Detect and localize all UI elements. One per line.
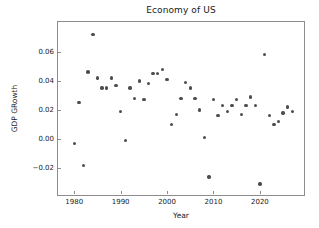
x-tick-label: 1980 — [65, 199, 83, 206]
scatter-point — [193, 97, 196, 100]
scatter-point — [286, 105, 289, 108]
scatter-point — [221, 104, 224, 107]
scatter-point — [133, 97, 136, 100]
y-axis-label-text: GDP GRowth — [11, 85, 20, 133]
y-tick-label: 0.06 — [38, 48, 54, 55]
plot-area: 0.060.040.020.00−0.02 198019902000201020… — [57, 21, 305, 196]
x-tick-label: 2000 — [158, 199, 176, 206]
y-tick-label: −0.02 — [33, 165, 54, 172]
scatter-point — [96, 76, 99, 79]
scatter-point — [230, 104, 233, 107]
x-tick-label: 2010 — [205, 199, 223, 206]
scatter-point — [277, 120, 280, 123]
chart-title: Economy of US — [57, 5, 305, 15]
scatter-point — [142, 98, 145, 101]
scatter-point — [184, 81, 187, 84]
scatter-point — [124, 139, 127, 142]
scatter-point — [240, 113, 243, 116]
y-tick-label: 0.04 — [38, 77, 54, 84]
scatter-point — [235, 98, 238, 101]
scatter-point — [268, 114, 271, 117]
x-tick-label: 2020 — [251, 199, 269, 206]
scatter-point — [73, 142, 76, 145]
scatter-point — [151, 72, 154, 75]
x-tick-label: 1990 — [112, 199, 130, 206]
scatter-point — [254, 104, 257, 107]
scatter-points — [58, 22, 304, 195]
scatter-point — [249, 95, 252, 98]
scatter-point — [207, 175, 210, 178]
scatter-point — [77, 101, 80, 104]
scatter-point — [105, 86, 108, 89]
scatter-point — [165, 78, 168, 81]
scatter-point — [258, 182, 261, 185]
scatter-point — [147, 82, 150, 85]
scatter-point — [110, 76, 113, 79]
scatter-point — [128, 86, 131, 89]
scatter-point — [272, 123, 275, 126]
scatter-point — [114, 84, 117, 87]
scatter-point — [281, 111, 284, 114]
scatter-point — [179, 97, 182, 100]
x-axis-label: Year — [57, 211, 305, 220]
scatter-point — [82, 164, 85, 167]
chart-figure: Economy of US GDP GRowth 0.060.040.020.0… — [0, 0, 319, 228]
scatter-point — [86, 70, 89, 73]
scatter-point — [198, 108, 201, 111]
y-tick-label: 0.02 — [38, 106, 54, 113]
scatter-point — [226, 110, 229, 113]
scatter-point — [291, 110, 294, 113]
scatter-point — [170, 123, 173, 126]
scatter-point — [216, 114, 219, 117]
scatter-point — [263, 53, 266, 56]
scatter-point — [175, 113, 178, 116]
scatter-point — [100, 86, 103, 89]
scatter-point — [244, 104, 247, 107]
scatter-point — [138, 79, 141, 82]
scatter-point — [91, 33, 94, 36]
scatter-point — [212, 98, 215, 101]
scatter-point — [119, 110, 122, 113]
scatter-point — [189, 86, 192, 89]
scatter-point — [161, 68, 164, 71]
scatter-point — [156, 72, 159, 75]
scatter-point — [203, 136, 206, 139]
y-axis-label: GDP GRowth — [9, 21, 21, 196]
y-tick-label: 0.00 — [38, 136, 54, 143]
